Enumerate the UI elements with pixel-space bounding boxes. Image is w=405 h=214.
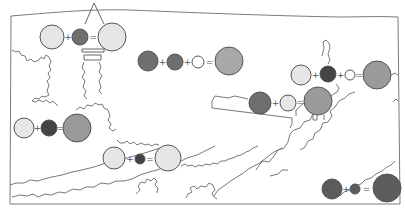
equals-sign: =: [363, 184, 371, 194]
circle-gray: [63, 114, 91, 142]
equals-sign: =: [355, 70, 363, 80]
circle-dark: [249, 92, 271, 114]
plus-sign: +: [342, 184, 350, 194]
equals-sign: =: [296, 97, 304, 107]
circle-dark: [72, 29, 88, 45]
circle-dark: [138, 51, 158, 71]
equation-eq1: +=: [40, 23, 126, 51]
circle-light: [291, 65, 311, 85]
plus-sign: +: [184, 57, 192, 67]
equals-sign: =: [146, 154, 154, 164]
circle-light: [280, 95, 296, 111]
circle-medium: [215, 47, 243, 75]
circle-darker: [322, 179, 342, 199]
equation-eq3: ++=: [291, 61, 391, 89]
plus-sign: +: [159, 57, 167, 67]
circle-darkest: [135, 154, 145, 164]
plus-sign: +: [64, 32, 72, 42]
plus-sign: +: [312, 70, 320, 80]
plus-sign: +: [126, 154, 134, 164]
circle-light: [98, 23, 126, 51]
equals-sign: =: [206, 57, 214, 67]
map-diagram: +=++=++=+=+=+=+=: [0, 0, 405, 214]
circle-darkest: [320, 66, 336, 82]
circle-equations: +=++=++=+=+=+=+=: [14, 23, 401, 202]
plus-sign: +: [272, 98, 280, 108]
circle-gray: [363, 61, 391, 89]
circle-darkest: [41, 120, 57, 136]
equation-eq2: ++=: [138, 47, 243, 75]
circle-light: [14, 118, 34, 138]
equation-eq5: +=: [14, 114, 91, 142]
circle-light: [155, 145, 181, 171]
circle-light: [103, 147, 125, 169]
plus-sign: +: [337, 70, 345, 80]
equation-eq7: +=: [322, 174, 401, 202]
circle-darker: [350, 184, 360, 194]
circle-gray: [304, 87, 332, 115]
circle-dark: [167, 54, 183, 70]
circle-light: [40, 25, 64, 49]
equation-eq6: +=: [103, 145, 181, 171]
equation-eq4: +=: [249, 87, 332, 115]
circle-white: [345, 70, 355, 80]
equals-sign: =: [89, 32, 97, 42]
circle-darker: [373, 174, 401, 202]
plus-sign: +: [34, 123, 42, 133]
circle-white: [192, 56, 204, 68]
